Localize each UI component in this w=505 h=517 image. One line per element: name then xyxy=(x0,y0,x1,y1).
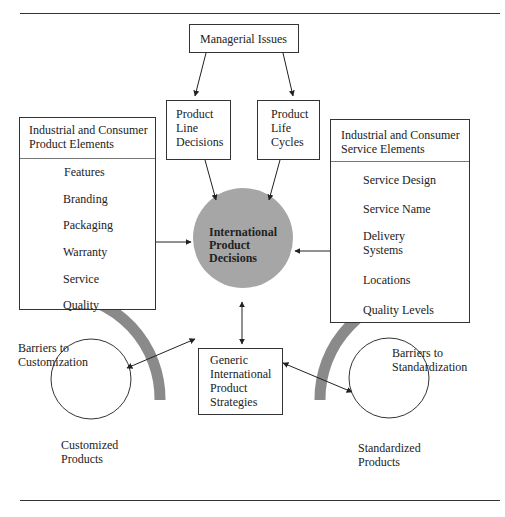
product-elements-box: Industrial and Consumer Product Elements… xyxy=(19,117,156,310)
list-item: Service xyxy=(63,272,99,286)
product-life-box: Product Life Cycles xyxy=(257,100,320,160)
product-line-text: Product xyxy=(176,107,223,121)
customized-products-label: Customized Products xyxy=(61,438,118,466)
product-life-text: Product xyxy=(271,107,308,121)
list-item: Locations xyxy=(363,273,410,287)
list-item: Service Name xyxy=(363,202,431,216)
list-item: Features xyxy=(64,165,105,179)
list-item: Quality Levels xyxy=(363,303,434,317)
service-elements-title: Industrial and Consumer Service Elements xyxy=(341,128,460,156)
list-item: Packaging xyxy=(63,218,113,232)
generic-strategies-box: Generic International Product Strategies xyxy=(198,348,283,415)
list-item: Systems xyxy=(363,243,403,257)
list-item: Warranty xyxy=(63,245,107,259)
barriers-customization-label: Barriers to Customization xyxy=(18,341,88,369)
list-item: Quality xyxy=(63,298,99,312)
list-item: Branding xyxy=(63,192,108,206)
managerial-issues-label: Managerial Issues xyxy=(200,32,287,46)
generic-strategies-text: Generic xyxy=(210,353,271,367)
list-item: Delivery xyxy=(363,229,405,243)
service-elements-box: Industrial and Consumer Service Elements… xyxy=(330,119,470,323)
product-line-box: Product Line Decisions xyxy=(166,100,231,160)
center-label: International Product Decisions xyxy=(209,226,277,265)
standardized-products-label: Standardized Products xyxy=(358,441,421,469)
barriers-standardization-label: Barriers to Standardization xyxy=(392,346,467,374)
divider xyxy=(331,161,469,162)
divider xyxy=(20,158,155,159)
managerial-issues-box: Managerial Issues xyxy=(189,24,299,53)
list-item: Service Design xyxy=(363,173,436,187)
product-elements-title: Industrial and Consumer Product Elements xyxy=(29,123,148,151)
